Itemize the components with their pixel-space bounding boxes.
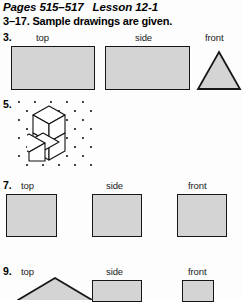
problem-9-top-view-pentagon [16,276,94,300]
problem-5-cube-solid [27,104,77,162]
label-top-7: top [21,180,34,191]
label-side-3: side [135,32,152,43]
problem-3-front-view-triangle [196,50,242,91]
problem-7-side-view-square [92,194,142,237]
lesson-label: Lesson 12-1 [93,1,158,13]
label-front-3: front [205,32,224,43]
label-front-9: front [188,266,207,277]
label-front-7: front [188,180,207,191]
problem-3-side-view-rectangle [105,46,190,90]
problem-7-front-view-square [177,194,227,237]
label-top-3: top [36,32,49,43]
page-header: Pages 515–517Lesson 12-1 [3,1,158,13]
problem-number-3: 3. [3,31,11,43]
problem-7-top-view-square [6,194,57,237]
problem-3-top-view-rectangle [11,46,95,90]
problem-9-front-view-rectangle [182,280,214,302]
problem-number-7: 7. [3,179,11,191]
pages-range: Pages 515–517 [3,1,84,13]
problem-9-side-view-rectangle [92,280,142,302]
instruction-text: 3–17. Sample drawings are given. [3,15,172,27]
label-side-9: side [106,266,123,277]
label-side-7: side [106,180,123,191]
problem-number-5: 5. [3,98,11,110]
problem-number-9: 9. [3,265,11,277]
